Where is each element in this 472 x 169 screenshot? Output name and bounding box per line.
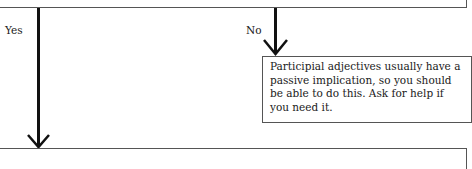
no-branch-note-box: Participial adjectives usually have a pa… [262, 56, 472, 123]
next-step-box [0, 148, 467, 169]
yes-branch-label: Yes [5, 24, 23, 36]
no-arrow-icon [264, 8, 287, 54]
yes-arrow-icon [28, 8, 49, 147]
note-text: Participial adjectives usually have a pa… [270, 60, 460, 113]
no-branch-label: No [246, 24, 262, 36]
